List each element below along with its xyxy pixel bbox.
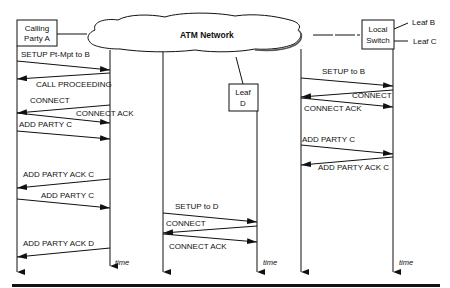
leaf-b-label: Leaf B	[412, 18, 435, 27]
msg-add-party-c-switch: ADD PARTY C	[302, 135, 355, 144]
time-label-switch: time	[399, 258, 413, 267]
bottom-rule	[12, 284, 440, 287]
messages-party-a: SETUP Pt-Mpt to B CALL PROCEEDING CONNEC…	[17, 50, 134, 257]
msg-connect-ack-d: CONNECT ACK	[169, 242, 227, 251]
messages-leaf-d: SETUP to D CONNECT CONNECT ACK	[163, 202, 257, 251]
leaf-d-label-2: D	[240, 99, 246, 108]
messages-local-switch: SETUP to B CONNECT CONNECT ACK ADD PARTY…	[301, 67, 393, 172]
msg-connect-b: CONNECT	[352, 91, 392, 100]
msg-setup-to-d: SETUP to D	[175, 202, 219, 211]
calling-party-label-1: Calling	[25, 24, 49, 33]
msg-add-party-c-1: ADD PARTY C	[19, 120, 72, 129]
msg-connect-a: CONNECT	[30, 96, 70, 105]
atm-network-cloud: ATM Network	[88, 13, 302, 52]
msg-setup-to-b: SETUP to B	[322, 67, 365, 76]
time-label-a: time	[115, 258, 129, 267]
time-label-d: time	[263, 258, 277, 267]
leaf-c-label: Leaf C	[413, 37, 437, 46]
msg-connect-d: CONNECT	[166, 219, 206, 228]
local-switch-label-1: Local	[368, 25, 387, 34]
msg-connect-ack-b: CONNECT ACK	[304, 104, 362, 113]
msg-setup-pt-mpt: SETUP Pt-Mpt to B	[21, 50, 90, 59]
cloud-label: ATM Network	[180, 30, 234, 40]
calling-party-label-2: Party A	[24, 34, 50, 43]
msg-connect-ack-a: CONNECT ACK	[76, 109, 134, 118]
msg-add-party-ack-d: ADD PARTY ACK D	[23, 239, 94, 248]
msg-call-proceeding: CALL PROCEEDING	[36, 80, 112, 89]
msg-add-party-c-2: ADD PARTY C	[41, 191, 94, 200]
sequence-diagram: ATM Network Calling Party A Local Switch…	[0, 0, 450, 288]
local-switch-label-2: Switch	[366, 36, 390, 45]
msg-add-party-ack-c-a: ADD PARTY ACK C	[23, 170, 94, 179]
msg-add-party-ack-c-switch: ADD PARTY ACK C	[318, 163, 389, 172]
leaf-d-label-1: Leaf	[235, 88, 251, 97]
